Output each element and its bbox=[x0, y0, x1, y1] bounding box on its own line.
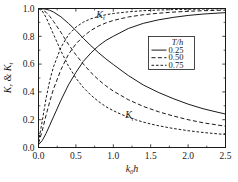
y-tick-label: 0.6 bbox=[23, 59, 35, 69]
data-curve bbox=[39, 9, 226, 142]
legend: T/h0.250.500.75 bbox=[149, 37, 195, 70]
legend-label: 0.75 bbox=[169, 60, 184, 70]
x-axis-title: k0h bbox=[126, 163, 139, 175]
data-curve bbox=[39, 9, 226, 127]
x-tick-label: 2.5 bbox=[220, 151, 232, 161]
data-curve bbox=[39, 10, 226, 143]
y-tick-labels: 0.00.20.40.60.81.0 bbox=[23, 4, 35, 153]
curve-label-Kr: Kr bbox=[124, 109, 135, 121]
data-curve bbox=[39, 13, 226, 145]
y-tick-label: 0.4 bbox=[23, 87, 35, 97]
x-tick-label: 1.0 bbox=[107, 151, 119, 161]
y-axis-title: Kr & Kt bbox=[2, 63, 14, 95]
curve-label-Kt: Kt bbox=[95, 9, 105, 21]
y-tick-label: 0.8 bbox=[23, 32, 35, 42]
x-tick-label: 2.0 bbox=[182, 151, 194, 161]
x-tick-label: 1.5 bbox=[145, 151, 157, 161]
curves-group bbox=[39, 9, 226, 145]
figure-container: 0.00.51.01.52.02.5 0.00.20.40.60.81.0 Kt… bbox=[0, 0, 238, 182]
y-tick-label: 0.0 bbox=[23, 143, 35, 153]
x-tick-label: 0.5 bbox=[70, 151, 82, 161]
chart-canvas: 0.00.51.01.52.02.5 0.00.20.40.60.81.0 Kt… bbox=[0, 0, 238, 182]
y-tick-label: 0.2 bbox=[23, 115, 35, 125]
x-tick-labels: 0.00.51.01.52.02.5 bbox=[33, 151, 232, 161]
y-tick-label: 1.0 bbox=[23, 4, 35, 14]
